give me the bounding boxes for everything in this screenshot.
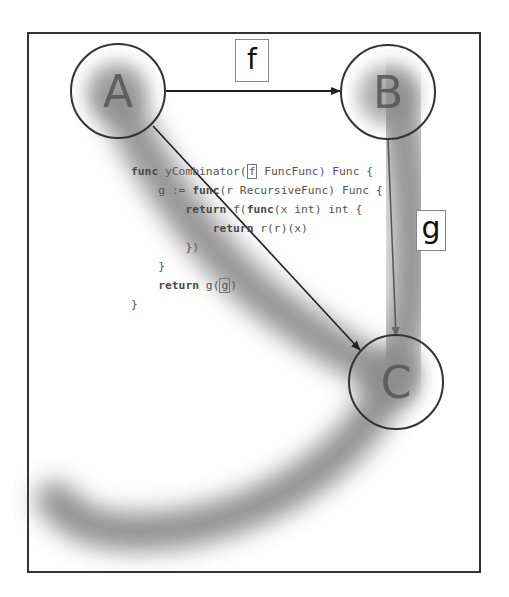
code-text: })	[185, 241, 199, 254]
code-text: (x int) int {	[274, 203, 362, 216]
edge-label-f: f	[235, 39, 269, 82]
code-keyword: return	[213, 222, 254, 235]
code-keyword: func	[192, 184, 219, 197]
code-line: return f(func(x int) int {	[131, 200, 383, 219]
code-text: r(r)(x)	[253, 222, 307, 235]
code-keyword: return	[158, 279, 199, 292]
code-line: g := func(r RecursiveFunc) Func {	[131, 181, 383, 200]
code-highlight-box: f	[247, 164, 258, 179]
code-text: }	[158, 260, 165, 273]
code-highlight-box: g	[219, 278, 230, 293]
code-keyword: func	[131, 165, 158, 178]
code-line: return g(g)	[131, 276, 383, 295]
node-c-label: C	[356, 343, 436, 423]
code-text: )	[230, 279, 237, 292]
code-line: })	[131, 238, 383, 257]
edge-label-g: g	[416, 210, 446, 251]
code-text: yCombinator(	[158, 165, 246, 178]
code-text: (r RecursiveFunc) Func {	[219, 184, 382, 197]
diagram-canvas: A B C f g func yCombinator(f FuncFunc) F…	[0, 0, 509, 597]
code-text: g :=	[158, 184, 192, 197]
code-text: }	[131, 298, 138, 311]
code-line: return r(r)(x)	[131, 219, 383, 238]
node-a-label: A	[78, 52, 158, 132]
code-line: }	[131, 257, 383, 276]
code-keyword: return	[185, 203, 226, 216]
code-block: func yCombinator(f FuncFunc) Func { g :=…	[131, 162, 383, 314]
code-line: func yCombinator(f FuncFunc) Func {	[131, 162, 383, 181]
code-text: FuncFunc) Func {	[257, 165, 373, 178]
code-text: g(	[199, 279, 219, 292]
code-keyword: func	[247, 203, 274, 216]
node-b-label: B	[348, 53, 428, 133]
code-line: }	[131, 295, 383, 314]
code-text: f(	[226, 203, 246, 216]
